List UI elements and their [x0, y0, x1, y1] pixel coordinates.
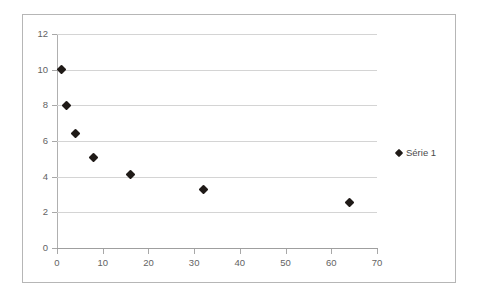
x-axis-tick-label: 20	[133, 258, 163, 268]
data-point-marker[interactable]	[345, 198, 355, 208]
data-point-marker[interactable]	[125, 170, 135, 180]
data-point-marker[interactable]	[57, 65, 67, 75]
gridline-horizontal	[57, 70, 377, 71]
x-axis-tick-label: 50	[271, 258, 301, 268]
x-axis-line	[57, 248, 378, 249]
y-axis-tick-label: 4	[26, 172, 48, 182]
gridline-horizontal	[57, 212, 377, 213]
y-axis-tick-label: 8	[26, 100, 48, 110]
x-axis-tick-label: 40	[225, 258, 255, 268]
x-axis-tick-label: 30	[179, 258, 209, 268]
legend-item-label: Série 1	[406, 147, 436, 158]
x-axis-tick	[331, 249, 332, 254]
x-axis-tick	[57, 249, 58, 254]
data-point-marker[interactable]	[198, 184, 208, 194]
gridline-horizontal	[57, 34, 377, 35]
scatter-chart-figure: 024681012 010203040506070 Série 1	[0, 0, 478, 300]
y-axis-tick-label: 6	[26, 136, 48, 146]
gridline-horizontal	[57, 141, 377, 142]
y-axis-tick-label-wrap: 12	[24, 29, 48, 39]
data-point-marker[interactable]	[89, 152, 99, 162]
x-axis-tick	[377, 249, 378, 254]
x-axis-tick	[240, 249, 241, 254]
x-axis-tick-label: 0	[42, 258, 72, 268]
x-axis-tick-label: 60	[316, 258, 346, 268]
data-point-marker[interactable]	[70, 129, 80, 139]
x-axis-tick-label: 10	[88, 258, 118, 268]
y-axis-tick-label: 2	[26, 207, 48, 217]
plot-area	[57, 34, 377, 248]
gridline-horizontal	[57, 177, 377, 178]
y-axis-tick-label-wrap: 4	[24, 172, 48, 182]
x-axis-tick-label: 70	[362, 258, 392, 268]
y-axis-tick-label-wrap: 6	[24, 136, 48, 146]
y-axis-tick-label-wrap: 0	[24, 243, 48, 253]
y-axis-tick-label-wrap: 8	[24, 100, 48, 110]
x-axis-tick	[286, 249, 287, 254]
y-axis-tick-label: 12	[26, 29, 48, 39]
gridline-horizontal	[57, 105, 377, 106]
data-point-marker[interactable]	[61, 100, 71, 110]
x-axis-tick	[103, 249, 104, 254]
diamond-marker-icon	[395, 148, 403, 156]
x-axis-tick	[148, 249, 149, 254]
y-axis-tick-label: 0	[26, 243, 48, 253]
x-axis-tick	[194, 249, 195, 254]
y-axis-tick-label-wrap: 10	[24, 65, 48, 75]
y-axis-tick-label-wrap: 2	[24, 207, 48, 217]
y-axis-tick-label: 10	[26, 65, 48, 75]
chart-legend[interactable]: Série 1	[396, 147, 436, 158]
